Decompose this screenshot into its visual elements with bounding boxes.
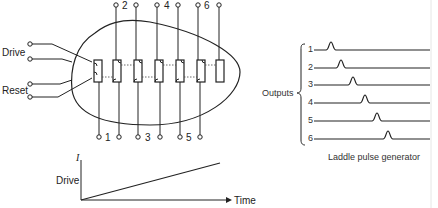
drive-time-graph: I Drive Time xyxy=(56,152,256,206)
terminal-label-5: 5 xyxy=(186,132,192,143)
bottom-terminal[interactable] xyxy=(97,135,101,139)
channel-label-6: 6 xyxy=(308,133,313,143)
drive-label: Drive xyxy=(2,47,26,58)
top-terminal[interactable] xyxy=(134,3,138,7)
channel-label-2: 2 xyxy=(308,62,313,72)
top-terminals: 2 4 6 xyxy=(114,0,221,60)
y-axis-symbol: I xyxy=(75,152,80,163)
pulse-trace-5 xyxy=(314,113,430,121)
terminal-label-4: 4 xyxy=(164,0,170,11)
terminal-label-2: 2 xyxy=(122,0,128,11)
pulse-trace-3 xyxy=(314,77,430,85)
top-terminal[interactable] xyxy=(196,3,200,7)
bottom-terminal[interactable] xyxy=(136,135,140,139)
x-axis-arrow-icon xyxy=(226,197,232,203)
top-terminal[interactable] xyxy=(155,3,159,7)
top-terminal[interactable] xyxy=(176,3,180,7)
laddic-diagram: Drive Reset xyxy=(0,0,438,208)
element-6 xyxy=(216,60,224,82)
terminal-label-6: 6 xyxy=(204,0,210,11)
bottom-terminal[interactable] xyxy=(117,135,121,139)
drive-terminal-b[interactable] xyxy=(28,57,32,61)
pulse-trace-2 xyxy=(314,60,430,68)
top-terminal[interactable] xyxy=(114,3,118,7)
bottom-terminal[interactable] xyxy=(158,135,162,139)
outputs-pulse-diagram: Outputs 1 2 3 4 5 6 Laddle pulse generat… xyxy=(262,42,430,162)
drive-terminal-a[interactable] xyxy=(28,42,32,46)
outputs-label: Outputs xyxy=(262,88,294,98)
pulse-trace-6 xyxy=(314,131,430,139)
drive-ramp-line xyxy=(81,163,220,200)
reset-terminal-b[interactable] xyxy=(28,95,32,99)
diagram-caption: Laddle pulse generator xyxy=(328,152,420,162)
outputs-brace xyxy=(297,44,305,145)
bottom-terminal[interactable] xyxy=(198,135,202,139)
terminal-label-1: 1 xyxy=(105,132,111,143)
channel-label-5: 5 xyxy=(308,115,313,125)
bottom-terminals: 1 3 5 xyxy=(97,82,202,143)
bottom-terminal[interactable] xyxy=(178,135,182,139)
reset-label: Reset xyxy=(2,85,28,96)
top-terminal[interactable] xyxy=(217,3,221,7)
ladder-elements xyxy=(94,60,224,82)
channel-label-1: 1 xyxy=(308,44,313,54)
pulse-trace-1 xyxy=(314,42,430,50)
pulse-trace-4 xyxy=(314,95,430,103)
channel-label-4: 4 xyxy=(308,97,313,107)
reset-terminal-a[interactable] xyxy=(28,82,32,86)
x-axis-label: Time xyxy=(234,195,256,206)
y-axis-label: Drive xyxy=(56,175,80,186)
reset-inputs: Reset xyxy=(2,78,92,99)
terminal-label-3: 3 xyxy=(145,132,151,143)
channel-label-3: 3 xyxy=(308,79,313,89)
